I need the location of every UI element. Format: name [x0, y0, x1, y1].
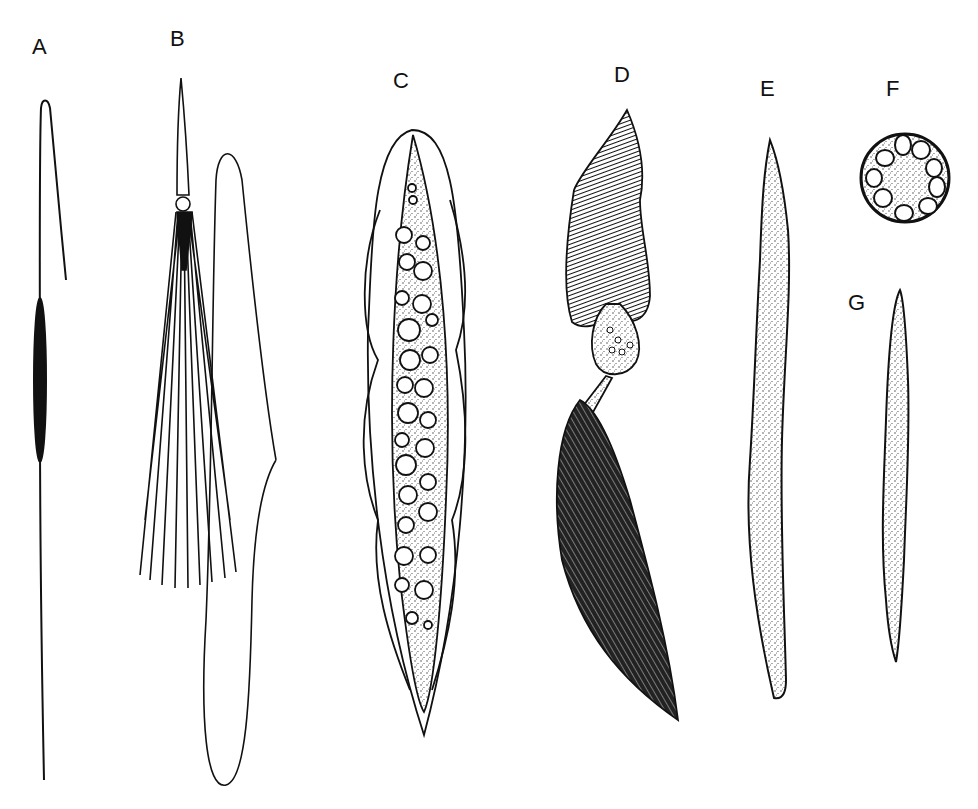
panel-d-drawing — [557, 110, 678, 720]
panel-c-drawing — [364, 130, 466, 735]
panel-f-drawing — [861, 134, 949, 222]
panel-e-drawing — [748, 140, 789, 698]
figure-drawing — [0, 0, 978, 809]
panel-g-drawing — [883, 290, 909, 662]
panel-a-drawing — [34, 101, 66, 781]
figure: A B C D E F G — [0, 0, 978, 809]
panel-b-drawing — [140, 78, 276, 785]
